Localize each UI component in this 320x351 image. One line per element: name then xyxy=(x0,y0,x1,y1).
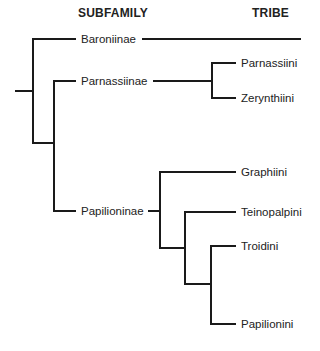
subfamily-baroniinae: Baroniinae xyxy=(80,32,137,46)
subfamily-papilioninae: Papilioninae xyxy=(80,204,145,218)
subfamily-parnassiinae: Parnassiinae xyxy=(80,74,148,88)
tribe-papilionini: Papilionini xyxy=(240,317,294,331)
tribe-parnassiini: Parnassiini xyxy=(240,56,298,70)
tribe-graphiini: Graphiini xyxy=(240,165,288,179)
tribe-header: TRIBE xyxy=(252,6,289,20)
tribe-troidini: Troidini xyxy=(240,239,279,253)
tribe-teinopalpini: Teinopalpini xyxy=(240,205,303,219)
tribe-zerynthiini: Zerynthiini xyxy=(240,91,295,105)
subfamily-header: SUBFAMILY xyxy=(78,6,148,20)
